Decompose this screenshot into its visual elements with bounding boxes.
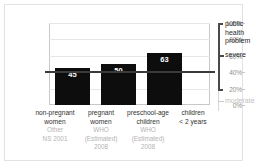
public-health-problem-line3: problem [225,37,248,46]
bracket-spine [218,23,220,91]
x-source-line2: (Estimated) [121,135,175,144]
public-health-problem-line2: health [225,29,244,38]
x-source-line3: 2008 [77,143,125,152]
bar-preschool-age-children[interactable]: 63 [147,53,182,105]
bar-value-label: 63 [147,56,182,64]
x-source-line1: Other [31,126,79,135]
x-label-line1: children [169,109,217,118]
gridline-80 [49,39,210,40]
x-label-line1: pregnant [77,109,125,118]
x-source-line2: NS 2001 [31,135,79,144]
moderate-tick-mark [218,101,224,102]
x-label-line1: non-pregnant [31,109,79,118]
reference-line-40-percent [45,71,215,73]
axis-line-left [49,23,50,105]
gridline-60 [49,56,210,57]
x-source-line2: (Estimated) [77,135,125,144]
severity-scale-legend: public health problem severe moderate [211,23,248,107]
x-label-line2: children [121,118,175,127]
x-label-line2: women [31,118,79,127]
x-label-line2: women [77,118,125,127]
chart-frame: 100% 80% 60% 40% 20% 0% 45 50 [4,4,243,161]
x-label-non-pregnant-women: non-pregnant women Other NS 2001 [31,109,79,143]
bracket-top-arm [218,23,223,25]
axis-line-right [209,23,210,105]
x-label-line1: preschool-age [121,109,175,118]
x-label-preschool-age-children: preschool-age children WHO (Estimated) 2… [121,109,175,152]
x-label-children-under-2-years: children < 2 years [169,109,217,126]
public-health-problem-line1: public [225,20,243,29]
bar-non-pregnant-women[interactable]: 45 [55,68,90,105]
moderate-label: moderate [225,97,248,106]
severe-tick-mark [218,55,224,57]
x-source-line1: WHO [121,126,175,135]
gridline-100 [49,23,210,24]
x-label-pregnant-women: pregnant women WHO (Estimated) 2008 [77,109,125,152]
x-source-line1: WHO [77,126,125,135]
x-label-line2: < 2 years [169,118,217,127]
x-source-line3: 2008 [121,143,175,152]
severe-label: severe [225,51,246,60]
plot-area: 45 50 63 [49,23,210,105]
